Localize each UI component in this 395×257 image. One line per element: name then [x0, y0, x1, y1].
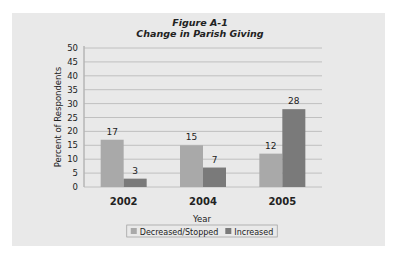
y-axis-label: Percent of Respondents	[53, 66, 63, 167]
chart-subtitle: Change in Parish Giving	[136, 28, 263, 39]
legend-label: Decreased/Stopped	[140, 228, 219, 237]
legend-label: Increased	[234, 228, 273, 237]
bar-decreased-stopped-2004	[180, 145, 203, 187]
chart-svg: Figure A-1 Change in Parish Giving 05101…	[0, 0, 395, 257]
y-tick-label: 0	[73, 182, 78, 192]
x-axis-label: Year	[192, 214, 212, 224]
data-label: 17	[106, 127, 117, 137]
data-label: 28	[288, 96, 300, 106]
y-tick-label: 10	[67, 154, 78, 164]
x-tick-label: 2004	[189, 196, 217, 207]
legend-swatch	[131, 228, 137, 234]
x-tick-label: 2002	[110, 196, 138, 207]
y-tick-label: 25	[67, 113, 78, 123]
y-tick-label: 35	[67, 85, 78, 95]
data-label: 7	[212, 155, 218, 165]
data-label: 12	[265, 141, 276, 151]
bar-decreased-stopped-2005	[259, 154, 282, 187]
legend: Decreased/StoppedIncreased	[127, 225, 277, 237]
y-tick-label: 20	[67, 126, 78, 136]
y-tick-label: 30	[67, 99, 78, 109]
bar-increased-2002	[124, 179, 147, 187]
bar-increased-2005	[282, 109, 305, 187]
y-tick-label: 15	[67, 140, 78, 150]
chart-title: Figure A-1	[172, 17, 228, 28]
x-tick-label: 2005	[268, 196, 296, 207]
bar-increased-2004	[203, 168, 226, 187]
data-label: 3	[132, 166, 138, 176]
y-tick-label: 5	[73, 168, 78, 178]
bar-decreased-stopped-2002	[101, 140, 124, 187]
data-label: 15	[186, 132, 197, 142]
y-tick-label: 40	[67, 71, 78, 81]
y-tick-label: 50	[67, 43, 78, 53]
legend-swatch	[225, 228, 231, 234]
y-tick-label: 45	[67, 57, 78, 67]
